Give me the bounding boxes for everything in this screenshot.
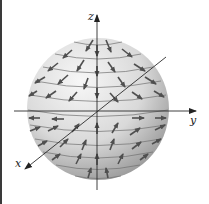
x-axis-label: x	[15, 157, 22, 170]
z-axis-label: z	[87, 10, 94, 23]
sphere-vector-field-diagram: z y x	[0, 0, 209, 204]
y-axis-label: y	[189, 114, 197, 127]
